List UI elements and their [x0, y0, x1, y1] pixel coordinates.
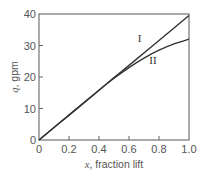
curve-label-I: I: [138, 32, 142, 44]
x-tick-label: 0.6: [121, 143, 136, 155]
x-axis-ticks: 00.20.40.60.81.0: [36, 136, 197, 155]
data-series: [39, 16, 189, 140]
x-tick-label: 0.2: [61, 143, 76, 155]
x-axis-title: x, fraction lift: [84, 158, 143, 170]
x-tick-label: 0: [36, 143, 42, 155]
y-tick-label: 40: [24, 8, 36, 20]
x-tick-label: 1.0: [181, 143, 196, 155]
y-axis-ticks: 010203040: [24, 8, 43, 146]
y-tick-label: 0: [30, 134, 36, 146]
y-tick-label: 30: [24, 40, 36, 52]
curve-label-II: II: [149, 54, 157, 66]
series-line-II: [39, 39, 189, 140]
y-tick-label: 10: [24, 103, 36, 115]
x-tick-label: 0.4: [91, 143, 106, 155]
line-chart: 00.20.40.60.81.0 010203040 III x, fracti…: [0, 0, 205, 172]
y-axis-title: q, gpm: [8, 61, 20, 93]
y-tick-label: 20: [24, 71, 36, 83]
x-tick-label: 0.8: [151, 143, 166, 155]
